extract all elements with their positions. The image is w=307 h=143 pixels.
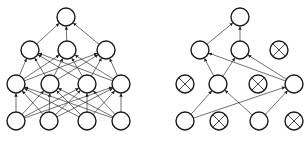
- neuron: [7, 75, 25, 93]
- connection-arrow: [37, 23, 59, 43]
- neuron: [78, 112, 96, 130]
- neuron: [231, 41, 249, 59]
- neuron: [7, 112, 25, 130]
- neuron: [250, 112, 268, 130]
- after-dropout-net: [176, 8, 303, 130]
- connection-arrow: [194, 87, 285, 118]
- neuron: [231, 8, 249, 26]
- neuron: [78, 75, 96, 93]
- connection-arrow: [35, 58, 46, 76]
- connection-arrow: [225, 90, 252, 115]
- nodes: [176, 8, 303, 130]
- dropout-diagram: [0, 0, 307, 143]
- connection-arrow: [265, 91, 287, 115]
- neuron: [58, 41, 76, 59]
- connection-arrow: [204, 58, 213, 76]
- neuron: [57, 8, 75, 26]
- connection-arrow: [73, 23, 99, 44]
- edges: [191, 23, 287, 118]
- connection-arrow: [191, 91, 212, 114]
- neuron: [21, 41, 39, 59]
- neuron: [112, 75, 130, 93]
- connection-arrow: [38, 55, 79, 80]
- neuron: [209, 75, 227, 93]
- neuron: [285, 75, 303, 93]
- neuron: [191, 41, 209, 59]
- neuron: [112, 112, 130, 130]
- connection-arrow: [19, 59, 26, 76]
- standard-neural-net: [7, 8, 130, 130]
- connection-arrow: [110, 59, 118, 76]
- edges: [16, 23, 121, 118]
- neuron: [97, 41, 115, 59]
- neuron: [176, 112, 194, 130]
- neuron: [41, 75, 59, 93]
- connection-arrow: [207, 23, 233, 44]
- neuron: [40, 112, 58, 130]
